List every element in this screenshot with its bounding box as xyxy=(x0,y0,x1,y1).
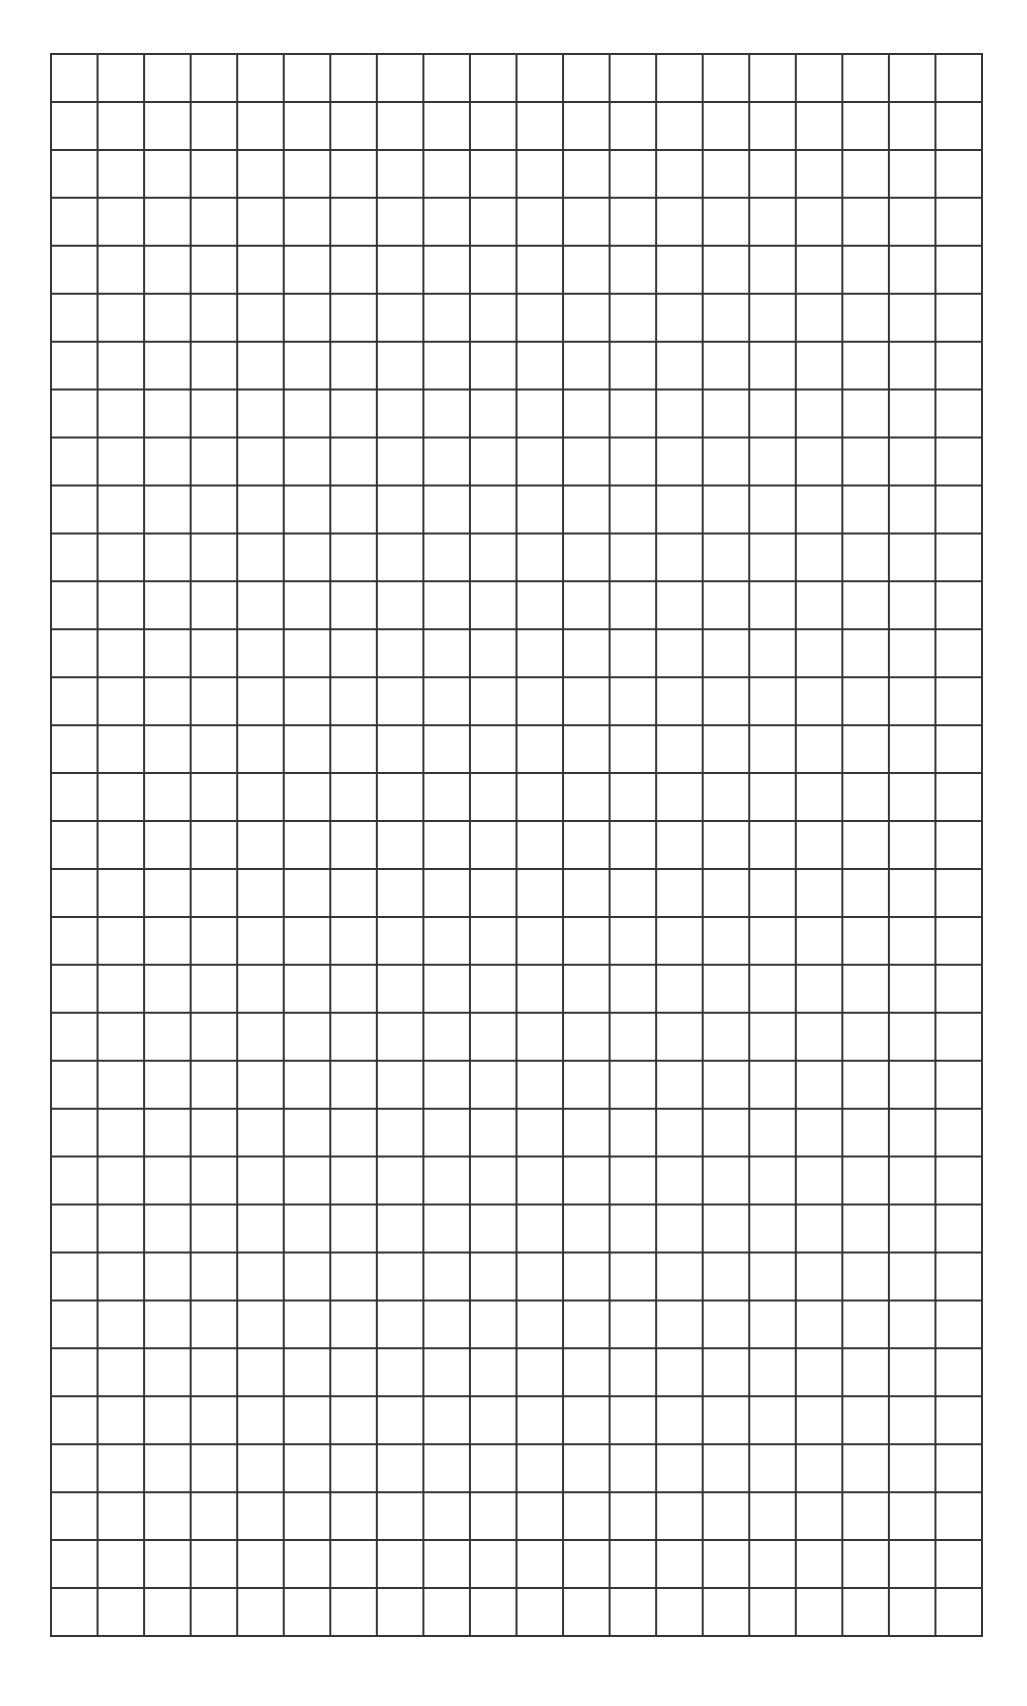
graph-paper-sheet xyxy=(0,0,1027,1706)
square-grid xyxy=(50,53,983,1637)
grid-lines xyxy=(50,53,983,1637)
